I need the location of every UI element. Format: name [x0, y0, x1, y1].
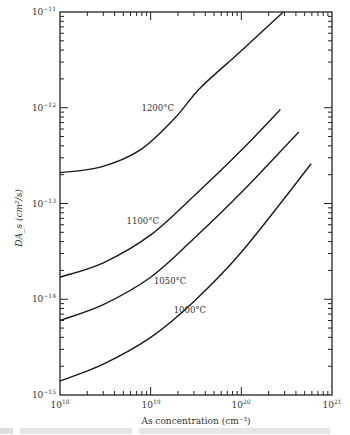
curve-label: 1100°C: [127, 216, 159, 226]
curve-label: 1200°C: [142, 103, 174, 113]
curve-1200c: [60, 12, 283, 173]
y-tick-label: 10−15: [32, 388, 56, 400]
x-axis-title: As concentration (cm⁻³): [140, 416, 250, 426]
plot-frame: [60, 12, 332, 395]
x-tick-label: 1020: [231, 398, 250, 410]
y-tick-label: 10−13: [32, 197, 56, 209]
y-tick-label: 10−12: [32, 101, 56, 113]
curve-labels: 1200°C1100°C1050°C1000°C: [127, 103, 206, 315]
curve-label: 1050°C: [154, 276, 186, 286]
curve-label: 1000°C: [174, 305, 206, 315]
y-tick-label: 10−14: [32, 292, 56, 304]
y-tick-labels: 10−11 10−12 10−13 10−14 10−15: [32, 5, 56, 400]
y-axis-title: DA_s (cm²/s): [14, 189, 25, 248]
curve-1100c: [60, 109, 280, 277]
x-tick-label: 1021: [322, 398, 341, 410]
figure-caption-cropped: [0, 428, 330, 434]
curve-1000c: [60, 164, 311, 381]
curves: [60, 12, 311, 381]
x-tick-label: 1019: [141, 398, 160, 410]
y-tick-label: 10−11: [32, 5, 56, 17]
axis-ticks: [60, 12, 332, 395]
x-tick-labels: 1018 1019 1020 1021: [50, 398, 341, 410]
x-tick-label: 1018: [50, 398, 69, 410]
diffusivity-chart: 1200°C1100°C1050°C1000°C 10−11 10−12 10−…: [0, 0, 350, 435]
